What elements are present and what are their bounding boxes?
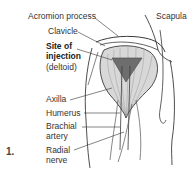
scapula-edge [160, 30, 166, 123]
label-acromion-process: Acromion process [28, 12, 96, 21]
brachial-artery [110, 100, 118, 160]
label-clavicle: Clavicle [48, 27, 78, 36]
arm-outline-right [170, 60, 174, 165]
label-humerus: Humerus [46, 109, 80, 118]
label-deltoid: (deltoid) [46, 63, 77, 72]
label-axilla: Axilla [46, 95, 66, 104]
label-brachial: Brachial [46, 122, 77, 131]
shoulder-illustration [0, 0, 194, 171]
label-artery: artery [46, 132, 68, 141]
label-scapula: Scapula [156, 12, 187, 21]
arm-outline-left [85, 48, 92, 168]
label-injection: injection [46, 52, 81, 61]
label-radial: Radial [46, 146, 70, 155]
label-nerve: nerve [46, 156, 67, 165]
figure-number: 1. [6, 146, 14, 157]
arm-vessel [136, 100, 141, 160]
label-site-of: Site of [46, 42, 72, 51]
